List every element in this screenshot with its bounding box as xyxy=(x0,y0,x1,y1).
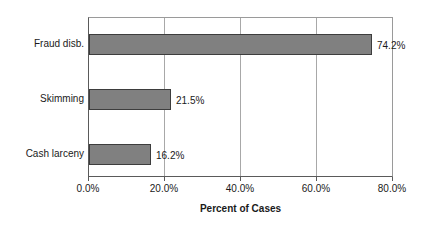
plot-area: 74.2% 21.5% 16.2% xyxy=(88,17,393,177)
category-axis: Fraud disb. Skimming Cash larceny xyxy=(0,17,84,177)
bar-value-label: 74.2% xyxy=(377,39,405,50)
xtick-label-60: 60.0% xyxy=(286,183,346,195)
category-label-skimming: Skimming xyxy=(0,93,84,105)
xtick-mark-80 xyxy=(392,177,393,181)
xtick-label-0: 0.0% xyxy=(58,183,118,195)
bar-fraud-disb[interactable] xyxy=(89,34,372,55)
x-axis-title: Percent of Cases xyxy=(88,203,393,215)
bar-value-label: 21.5% xyxy=(176,94,204,105)
bar-row: 21.5% xyxy=(89,89,392,110)
xtick-label-40: 40.0% xyxy=(210,183,270,195)
bar-value-label: 16.2% xyxy=(156,149,184,160)
category-label-cash-larceny: Cash larceny xyxy=(0,148,84,160)
xtick-label-20: 20.0% xyxy=(134,183,194,195)
bar-cash-larceny[interactable] xyxy=(89,144,151,165)
bar-chart-figure: 74.2% 21.5% 16.2% Fraud disb. Skimming C… xyxy=(0,0,428,232)
xtick-mark-0 xyxy=(88,177,89,181)
xtick-mark-60 xyxy=(316,177,317,181)
bar-skimming[interactable] xyxy=(89,89,171,110)
xtick-mark-40 xyxy=(240,177,241,181)
bar-row: 74.2% xyxy=(89,34,392,55)
xtick-label-80: 80.0% xyxy=(362,183,422,195)
bar-row: 16.2% xyxy=(89,144,392,165)
category-label-fraud-disb: Fraud disb. xyxy=(0,38,84,50)
xtick-mark-20 xyxy=(164,177,165,181)
